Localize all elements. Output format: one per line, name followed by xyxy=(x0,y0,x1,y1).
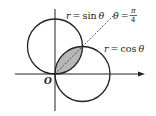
ray-label: θ= xyxy=(113,10,129,21)
ray-label-numerator: π xyxy=(130,7,136,15)
polar-diagram: r=sinθ θ= π 4 r=cosθ O xyxy=(0,0,156,116)
ray-label-denominator: 4 xyxy=(131,16,136,24)
x-axis-arrow-icon xyxy=(138,72,145,77)
cos-curve-label: r=cosθ xyxy=(104,43,144,54)
origin-label: O xyxy=(44,76,52,86)
sin-curve-label: r=sinθ xyxy=(66,10,105,21)
